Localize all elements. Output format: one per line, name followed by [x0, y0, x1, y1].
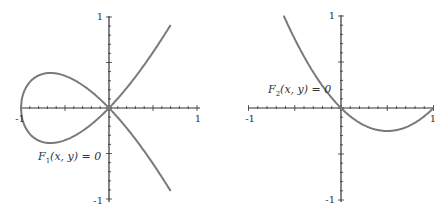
y-tick-label-top: 1 [329, 10, 335, 21]
y-tick-label-top: 1 [97, 11, 103, 22]
curve [284, 16, 434, 131]
x-tick-label-left: -1 [245, 113, 255, 124]
x-tick-label-right: 1 [430, 113, 436, 124]
y-tick-label-bottom: -1 [325, 194, 335, 205]
equation-label: F2(x, y) = 0 [267, 83, 331, 98]
y-tick-label-bottom: -1 [93, 195, 103, 206]
equation-label: F1(x, y) = 0 [37, 150, 101, 165]
plot-f2: 1 -1 -1 1 F2(x, y) = 0 [245, 10, 436, 205]
plot-f1: 1 -1 -1 1 F1(x, y) = 0 [15, 11, 201, 206]
curve-upper-branch [21, 25, 171, 108]
x-tick-label-left: -1 [15, 113, 25, 124]
x-tick-label-right: 1 [195, 113, 201, 124]
figure: 1 -1 -1 1 F1(x, y) = 0 1 -1 -1 1 F2(x, y… [0, 0, 447, 215]
